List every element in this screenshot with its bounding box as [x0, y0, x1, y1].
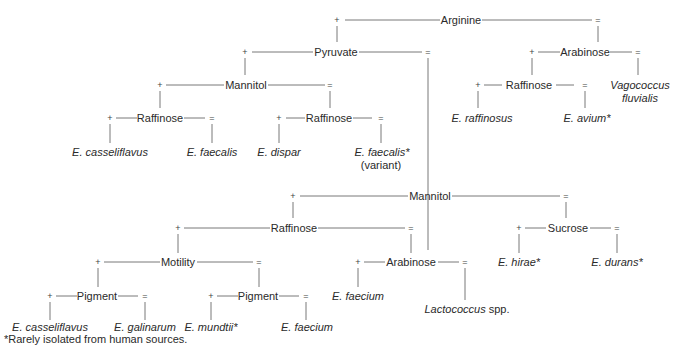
node-raffinose: Raffinose — [271, 222, 317, 235]
positive-symbol: + — [516, 224, 521, 233]
leaf-e-faecalis-variant: E. faecalis* — [354, 146, 409, 159]
negative-symbol: = — [209, 114, 214, 123]
negative-symbol: = — [595, 16, 600, 25]
leaf-e-hirae: E. hirae* — [498, 256, 540, 269]
positive-symbol: + — [47, 292, 52, 301]
node-pyruvate: Pyruvate — [314, 46, 357, 59]
leaf-e-faecalis: E. faecalis — [187, 146, 238, 159]
negative-symbol: = — [378, 114, 383, 123]
node-mannitol: Mannitol — [409, 190, 451, 203]
negative-symbol: = — [408, 224, 413, 233]
node-raffinose: Raffinose — [306, 112, 352, 125]
leaf-e-durans: E. durans* — [591, 256, 642, 269]
positive-symbol: + — [208, 292, 213, 301]
node-arabinose: Arabinose — [386, 256, 436, 269]
leaf-e-casseliflavus: E. casseliflavus — [72, 146, 148, 159]
leaf-e-casseliflavus: E. casseliflavus — [12, 321, 88, 334]
negative-symbol: = — [614, 224, 619, 233]
positive-symbol: + — [290, 192, 295, 201]
negative-symbol: = — [635, 48, 640, 57]
positive-symbol: + — [529, 48, 534, 57]
negative-symbol: = — [462, 258, 467, 267]
footnote: *Rarely isolated from human sources. — [4, 333, 187, 345]
node-raffinose: Raffinose — [506, 79, 552, 92]
positive-symbol: + — [334, 16, 339, 25]
flowchart: + = + = + = + = + = + = + = + = + = + = … — [0, 0, 678, 356]
leaf-e-faecium: E. faecium — [281, 321, 333, 334]
node-pigment: Pigment — [238, 290, 278, 303]
positive-symbol: + — [175, 224, 180, 233]
node-sucrose: Sucrose — [548, 222, 588, 235]
positive-symbol: + — [475, 81, 480, 90]
node-raffinose: Raffinose — [137, 112, 183, 125]
leaf-lactococcus: Lactococcus spp. — [424, 303, 509, 316]
node-arginine: Arginine — [441, 14, 481, 27]
positive-symbol: + — [276, 114, 281, 123]
node-mannitol: Mannitol — [225, 79, 267, 92]
node-pigment: Pigment — [77, 290, 117, 303]
leaf-variant-note: (variant) — [361, 159, 401, 172]
positive-symbol: + — [107, 114, 112, 123]
negative-symbol: = — [582, 81, 587, 90]
negative-symbol: = — [563, 192, 568, 201]
leaf-e-mundtii: E. mundtii* — [184, 321, 237, 334]
positive-symbol: + — [242, 48, 247, 57]
node-arabinose: Arabinose — [560, 46, 610, 59]
positive-symbol: + — [157, 81, 162, 90]
negative-symbol: = — [425, 48, 430, 57]
leaf-e-raffinosus: E. raffinosus — [451, 112, 512, 125]
leaf-e-galinarum: E. galinarum — [114, 321, 176, 334]
leaf-e-faecium: E. faecium — [332, 290, 384, 303]
positive-symbol: + — [355, 258, 360, 267]
leaf-vagococcus: Vagococcus — [610, 79, 670, 92]
negative-symbol: = — [303, 292, 308, 301]
leaf-e-dispar: E. dispar — [257, 146, 300, 159]
positive-symbol: + — [95, 258, 100, 267]
leaf-vagococcus-species: fluvialis — [622, 92, 658, 105]
negative-symbol: = — [256, 258, 261, 267]
negative-symbol: = — [327, 81, 332, 90]
negative-symbol: = — [142, 292, 147, 301]
node-motility: Motility — [161, 256, 195, 269]
leaf-e-avium: E. avium* — [563, 112, 610, 125]
